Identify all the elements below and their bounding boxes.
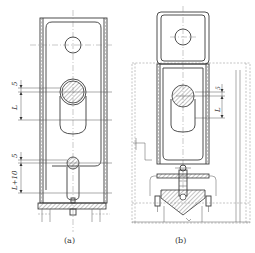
dim-label-L-a: L [10, 105, 19, 111]
technical-drawing: 5 L 5 L+10 (a) [0, 0, 255, 253]
base-plate-a [38, 203, 106, 209]
dim-label-L-b: L [214, 107, 222, 113]
side-bolt-right-b [206, 196, 211, 206]
channel-outline-a [40, 18, 107, 203]
dim-label-L10-a: L+10 [11, 170, 19, 191]
dim-label-5-b: 5 [214, 86, 221, 90]
caption-a: (a) [64, 236, 75, 245]
dim-label-5-upper-a: 5 [11, 81, 19, 86]
subfigure-a: 5 L 5 L+10 (a) [10, 10, 112, 245]
dim-label-5-lower-a: 5 [11, 153, 19, 158]
subfigure-b: 5 L (b) [132, 6, 250, 245]
side-bolt-left-b [155, 196, 160, 206]
caption-b: (b) [175, 236, 186, 245]
